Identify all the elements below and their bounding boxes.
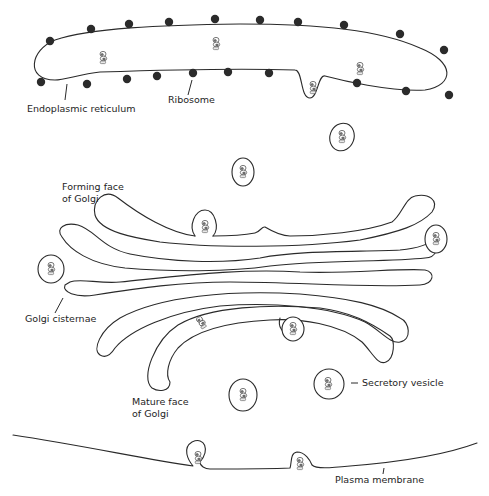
label-mature-face-1: Mature face — [132, 396, 189, 408]
plasma-membrane — [13, 435, 477, 470]
label-forming-face-1: Forming face — [62, 181, 124, 193]
budding-vesicle — [282, 317, 304, 341]
label-plasma-membrane: Plasma membrane — [335, 474, 424, 486]
protein-icon — [213, 37, 220, 49]
secretory-vesicle — [229, 379, 257, 411]
secretory-vesicle — [314, 369, 344, 399]
label-golgi-cisternae: Golgi cisternae — [25, 313, 96, 325]
er-leader-line — [65, 84, 67, 100]
cisternae-leader-line — [55, 298, 63, 313]
protein-icon — [310, 81, 317, 93]
label-forming-face-2: of Golgi — [62, 193, 99, 205]
label-endoplasmic-reticulum: Endoplasmic reticulum — [27, 103, 136, 115]
label-mature-face-2: of Golgi — [132, 408, 169, 420]
vesicle-left — [38, 255, 64, 283]
endoplasmic-reticulum — [34, 24, 447, 98]
diagram-canvas — [0, 0, 489, 496]
transport-vesicle — [232, 158, 254, 186]
label-secretory-vesicle: Secretory vesicle — [362, 377, 444, 389]
label-ribosome: Ribosome — [168, 94, 215, 106]
ribosomes — [37, 15, 453, 99]
golgi-apparatus — [60, 194, 438, 390]
protein-icon — [357, 62, 364, 74]
transport-vesicle — [326, 120, 358, 155]
secretory-pathway-diagram: Endoplasmic reticulum Ribosome Forming f… — [0, 0, 489, 496]
vesicle-right — [425, 225, 447, 253]
ribosome-leader-line — [188, 80, 192, 95]
protein-icon — [100, 51, 107, 63]
